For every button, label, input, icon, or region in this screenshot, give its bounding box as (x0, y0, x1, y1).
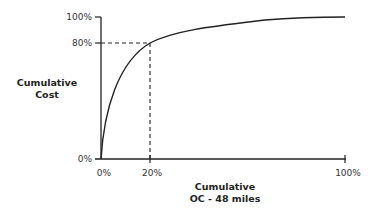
pareto-chart: 100% 80% 0% 0% 20% 100% Cumulative Cost … (0, 0, 378, 215)
y-tick-label-100: 100% (66, 12, 92, 22)
y-tick-label-80: 80% (72, 38, 92, 48)
x-axis-label-line1: Cumulative (195, 181, 256, 192)
x-tick-label-0: 0% (97, 168, 112, 178)
y-axis-label-line1: Cumulative (17, 77, 78, 88)
x-tick-label-100: 100% (335, 168, 361, 178)
cumulative-curve (101, 17, 345, 159)
y-axis-label-line2: Cost (35, 89, 59, 100)
x-tick-label-20: 20% (142, 168, 162, 178)
y-tick-label-0: 0% (78, 154, 93, 164)
x-axis-label-line2: OC - 48 miles (190, 193, 261, 204)
